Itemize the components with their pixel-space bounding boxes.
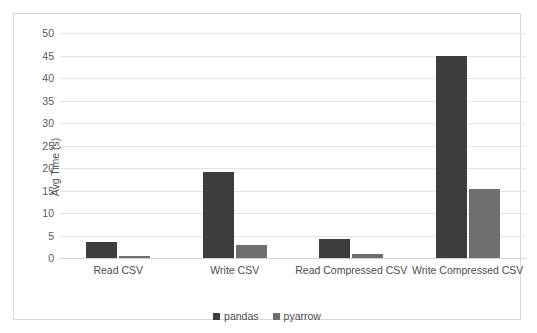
chart-container: Avg Time (s) 50454035302520151050 Read C… [0,0,537,333]
y-axis-tick-label: 20 [42,163,54,174]
y-axis-tick-label: 35 [42,95,54,106]
bar-pandas-write-compressed-csv[interactable] [436,56,467,258]
bar-pandas-read-compressed-csv[interactable] [319,239,350,258]
x-axis-category-labels: Read CSVWrite CSVRead Compressed CSVWrit… [60,263,526,309]
y-axis-tick-label: 25 [42,140,54,151]
bar-pyarrow-write-compressed-csv[interactable] [469,189,500,258]
legend-label: pandas [224,310,258,322]
x-axis-label-write-csv: Write CSV [177,263,294,277]
y-axis-tick-label: 50 [42,28,54,39]
bar-pyarrow-read-csv[interactable] [119,256,150,258]
y-axis-tick-label: 15 [42,185,54,196]
bar-group [177,33,294,258]
bar-pandas-read-csv[interactable] [86,242,117,258]
gridline: 0 [60,258,526,259]
y-axis-tick-label: 10 [42,208,54,219]
y-axis-tick-label: 0 [48,253,54,264]
y-axis-tick-label: 45 [42,50,54,61]
legend-swatch-pandas [213,313,220,320]
bar-group [410,33,527,258]
chart-legend: pandaspyarrow [14,310,520,322]
legend-item-pyarrow[interactable]: pyarrow [273,310,321,322]
bar-pyarrow-read-compressed-csv[interactable] [352,254,383,259]
y-axis-tick-label: 40 [42,73,54,84]
bar-group [293,33,410,258]
x-axis-label-read-csv: Read CSV [60,263,177,277]
bar-pandas-write-csv[interactable] [203,172,234,258]
bar-group [60,33,177,258]
bars-layer [60,33,526,258]
legend-item-pandas[interactable]: pandas [213,310,258,322]
chart-frame: Avg Time (s) 50454035302520151050 Read C… [13,13,521,320]
bar-pyarrow-write-csv[interactable] [236,245,267,259]
y-axis-tick-label: 5 [48,230,54,241]
x-axis-label-read-compressed-csv: Read Compressed CSV [293,263,410,277]
legend-label: pyarrow [284,310,321,322]
x-axis-label-write-compressed-csv: Write Compressed CSV [410,263,527,277]
plot-area: 50454035302520151050 [60,33,526,258]
legend-swatch-pyarrow [273,313,280,320]
cropped-title-remnant [0,0,537,6]
y-axis-tick-label: 30 [42,118,54,129]
